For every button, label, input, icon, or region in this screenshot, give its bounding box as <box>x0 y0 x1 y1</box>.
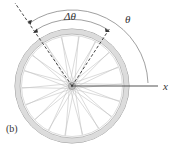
rotating-wheel-diagram: Δθ θ x (b) <box>0 0 180 154</box>
x-axis-label: x <box>162 80 168 92</box>
theta-label: θ <box>125 13 131 25</box>
spoke <box>35 88 74 119</box>
panel-label: (b) <box>6 123 18 135</box>
spoke <box>22 87 72 88</box>
arrowhead-right-icon <box>105 28 110 32</box>
delta-theta-label: Δθ <box>63 10 76 22</box>
spoke <box>26 88 73 104</box>
